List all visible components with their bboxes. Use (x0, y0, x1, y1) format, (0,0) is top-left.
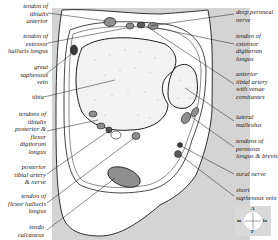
label-deep-peroneal-nerve: deep peroneal nerve (236, 8, 273, 23)
label-tibia: tibia (32, 93, 44, 101)
label-tibialis-posterior-fdl: tendons of tibialis posterior & flexor d… (15, 110, 46, 156)
short-saphenous-vein-shape (175, 151, 182, 158)
lateral-malleolus-bone (168, 64, 198, 108)
great-saphenous-vein-shape (71, 45, 78, 55)
label-anterior-tibial-artery: anterior tibial artery with venae comita… (236, 70, 268, 100)
tibialis-anterior-tendon (104, 18, 116, 27)
tibialis-posterior-tendon (89, 111, 97, 117)
label-extensor-hallucis-longus: tendon of extensor hallucis longus (8, 32, 48, 55)
orientation-compass: A P m la (235, 206, 271, 236)
label-tendo-calcaneus: tendo calcaneus (18, 223, 44, 238)
fdl-tendon (97, 123, 105, 129)
compass-lateral: la (263, 218, 267, 223)
label-short-saphenous-vein: short saphenous vein (236, 186, 276, 201)
label-lateral-malleolus: lateral malleolus (236, 113, 262, 128)
label-sural-nerve: sural nerve (236, 170, 266, 178)
sural-nerve-shape (178, 143, 183, 148)
compass-anterior: A (251, 206, 255, 211)
anterior-tibial-vessels (137, 22, 145, 28)
posterior-tibial-nerve (111, 131, 121, 139)
label-great-saphenous-vein: great saphenous vein (20, 63, 48, 86)
label-peroneus-tendons: tendons of peroneus longus & brevis (236, 137, 278, 160)
label-extensor-digitorum-longus: tendon of extensor digitorum longus (236, 32, 262, 62)
compass-medial: m (237, 218, 241, 223)
compass-posterior: P (251, 229, 254, 234)
label-posterior-tibial-artery-nerve: posterior tibial artery & nerve (14, 163, 46, 186)
label-tibialis-anterior: tendon of tibialis anterior (23, 2, 48, 25)
ehl-tendon (126, 23, 134, 29)
label-flexor-hallucis-longus: tendon of flexor hallucis longus (8, 192, 46, 215)
